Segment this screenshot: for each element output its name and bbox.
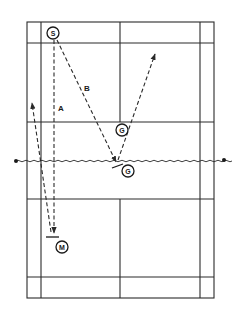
- player-m: M: [56, 241, 68, 253]
- player-g-lower: G: [122, 165, 134, 177]
- racket-marks: [46, 164, 123, 237]
- net-post-left: [14, 159, 18, 163]
- path-label-a: A: [58, 104, 64, 113]
- player-g-upper: G: [116, 124, 128, 136]
- path-label-b: B: [84, 84, 90, 93]
- path-return-up-line: [118, 54, 155, 160]
- player-label-g-lower: G: [125, 168, 131, 175]
- shot-paths: [32, 40, 155, 233]
- badminton-court-diagram: A B S G G M: [0, 0, 235, 312]
- player-label-m: M: [59, 244, 65, 251]
- net-post-right: [222, 158, 226, 162]
- player-s: S: [47, 27, 59, 39]
- player-label-g-upper: G: [119, 127, 125, 134]
- net: [14, 158, 232, 163]
- racket-mark-g: [112, 164, 123, 168]
- player-label-s: S: [51, 30, 56, 37]
- path-b-line: [57, 40, 116, 162]
